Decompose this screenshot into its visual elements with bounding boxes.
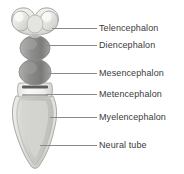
- leader-line-neural-tube: [40, 145, 97, 146]
- label-myelencephalon: Myelencephalon: [99, 112, 166, 122]
- leader-line-myelencephalon: [50, 117, 97, 118]
- myelencephalon-body: [12, 96, 56, 168]
- label-neural-tube: Neural tube: [99, 140, 147, 150]
- leader-line-mesencephalon: [44, 73, 97, 74]
- leader-line-diencephalon: [44, 45, 97, 46]
- leader-line-metencephalon: [46, 94, 97, 95]
- telencephalon-vesicles: [12, 8, 59, 38]
- diencephalon-vesicle: [20, 36, 50, 62]
- neural-tube-figure: Telencephalon Diencephalon Mesencephalon…: [0, 0, 184, 174]
- label-telencephalon: Telencephalon: [99, 23, 158, 33]
- label-diencephalon: Diencephalon: [99, 40, 155, 50]
- label-mesencephalon: Mesencephalon: [99, 68, 164, 78]
- leader-line-telencephalon: [52, 28, 97, 29]
- label-metencephalon: Metencephalon: [99, 89, 162, 99]
- mesencephalon-vesicle: [19, 59, 51, 85]
